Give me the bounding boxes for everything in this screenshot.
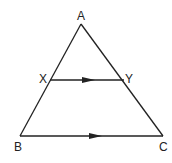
label-b: B (14, 141, 22, 153)
parallel-arrow-bc-icon (89, 133, 102, 139)
triangle-diagram (0, 0, 172, 163)
parallel-arrow-xy-icon (82, 77, 95, 83)
label-x: X (39, 73, 47, 85)
label-y: Y (125, 73, 133, 85)
label-c: C (159, 141, 168, 153)
label-a: A (77, 10, 85, 22)
